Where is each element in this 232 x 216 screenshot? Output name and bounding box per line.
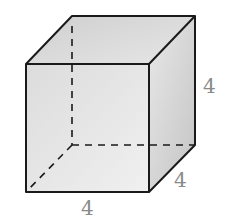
- cube-diagram: 4 4 4: [0, 0, 232, 216]
- height-label: 4: [203, 74, 216, 98]
- width-label: 4: [81, 196, 94, 216]
- depth-label: 4: [174, 168, 187, 192]
